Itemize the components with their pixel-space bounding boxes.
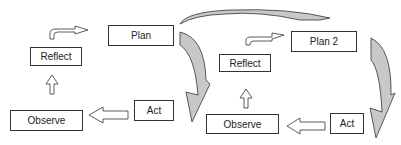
plan-box-1: Plan: [108, 25, 174, 46]
reflect-box-2: Reflect: [219, 54, 271, 72]
plan-box-2: Plan 2: [291, 31, 357, 52]
plan-label-2: Plan 2: [310, 36, 338, 47]
observe-box-2: Observe: [206, 114, 279, 134]
act-box-1: Act: [134, 100, 174, 121]
act-label-1: Act: [147, 105, 161, 116]
arrow-act-to-observe-1: [89, 107, 128, 123]
plan-label-1: Plan: [131, 30, 151, 41]
reflect-label-1: Reflect: [40, 51, 71, 62]
observe-label-2: Observe: [224, 119, 262, 130]
reflect-box-1: Reflect: [30, 47, 82, 66]
act-box-2: Act: [330, 113, 364, 134]
act-label-2: Act: [340, 118, 354, 129]
observe-label-1: Observe: [28, 115, 66, 126]
arrow-observe-to-reflect-2: [240, 89, 252, 108]
arrow-plan-to-act-1: [180, 32, 210, 122]
arrow-reflect-to-plan-2: [246, 33, 284, 45]
reflect-label-2: Reflect: [229, 58, 260, 69]
arrow-plan-to-plan2: [180, 10, 330, 24]
arrow-act-to-observe-2: [287, 118, 325, 134]
arrow-reflect-to-plan-1: [50, 26, 88, 39]
observe-box-1: Observe: [10, 110, 83, 131]
arrow-observe-to-reflect-1: [46, 75, 58, 94]
arrow-plan2-to-act-2: [370, 38, 395, 138]
